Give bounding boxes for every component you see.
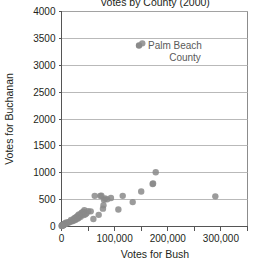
- chart-title: Votes by County (2000): [100, 0, 210, 8]
- data-point: [71, 216, 77, 222]
- data-point: [97, 193, 103, 199]
- data-point: [153, 169, 159, 175]
- data-point: [59, 222, 65, 228]
- data-point: [90, 216, 96, 222]
- x-tick-label: 200,000: [150, 233, 187, 244]
- x-tick-label: 0: [59, 233, 65, 244]
- annotation-label-line1: Palm Beach: [148, 40, 202, 51]
- data-point: [100, 205, 106, 211]
- y-tick-label: 2000: [33, 114, 56, 125]
- y-tick-label: 1000: [33, 167, 56, 178]
- x-axis-title: Votes for Bush: [121, 248, 189, 260]
- y-axis-title: Votes for Buchanan: [3, 73, 15, 165]
- annotation-palm-beach: Palm Beach County: [136, 40, 202, 63]
- data-point: [130, 199, 136, 205]
- plot-svg: Votes by County (2000) 05001000150020002…: [0, 0, 260, 264]
- annotation-label-line2: County: [169, 52, 201, 63]
- y-tick-label: 1500: [33, 140, 56, 151]
- data-point: [149, 181, 155, 187]
- y-tick-label: 500: [39, 194, 56, 205]
- y-tick-label: 4000: [33, 6, 56, 17]
- data-point: [212, 193, 218, 199]
- data-point: [96, 212, 102, 218]
- x-axis-ticks: 0100,000200,000300,000: [59, 227, 248, 244]
- y-axis-ticks: 05001000150020002500300035004000: [33, 6, 61, 232]
- y-tick-label: 3500: [33, 33, 56, 44]
- y-tick-label: 2500: [33, 87, 56, 98]
- data-point: [115, 206, 121, 212]
- x-tick-label: 300,000: [203, 233, 240, 244]
- data-point: [120, 193, 126, 199]
- x-tick-label: 100,000: [97, 233, 134, 244]
- data-point: [92, 193, 98, 199]
- annotation-marker-dot: [136, 42, 142, 48]
- data-point: [138, 188, 144, 194]
- data-points: [59, 40, 219, 229]
- scatter-chart: Votes by County (2000) 05001000150020002…: [0, 0, 260, 264]
- y-tick-label: 3000: [33, 60, 56, 71]
- y-tick-label: 0: [50, 221, 56, 232]
